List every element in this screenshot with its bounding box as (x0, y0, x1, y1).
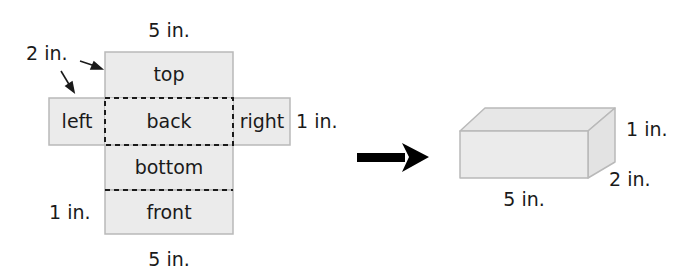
face-label-bottom: bottom (135, 156, 204, 178)
dim-right-side: 1 in. (296, 110, 338, 132)
prism-dim-length: 5 in. (503, 188, 545, 210)
rectangular-prism (460, 108, 615, 178)
dim-fold-height: 2 in. (26, 42, 68, 64)
net-to-prism-diagram: top left back right bottom front 5 in. 2… (0, 0, 687, 276)
prism-front-face (460, 131, 588, 178)
prism-dim-depth: 2 in. (609, 168, 651, 190)
right-arrow-icon (357, 143, 429, 172)
face-label-left: left (62, 110, 93, 132)
net: top left back right bottom front 5 in. 2… (26, 19, 338, 270)
dim-front-height: 1 in. (49, 201, 91, 223)
face-label-back: back (146, 110, 191, 132)
prism-dim-height: 1 in. (626, 118, 668, 140)
face-label-front: front (146, 201, 191, 223)
face-label-right: right (240, 110, 285, 132)
face-label-top: top (153, 63, 184, 85)
dim-top-width: 5 in. (148, 19, 190, 41)
dim-bottom-width: 5 in. (148, 248, 190, 270)
pointer-arrow-icon (61, 61, 102, 92)
